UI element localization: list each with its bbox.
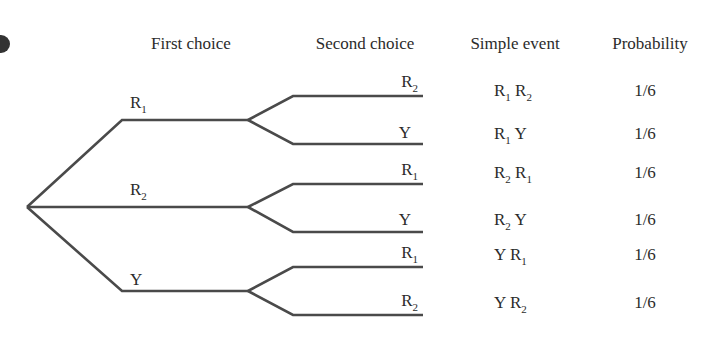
probability-value: 1/6 [634, 164, 656, 181]
first-choice-label: R2 [130, 181, 147, 198]
first-choice-label: R1 [130, 94, 147, 111]
simple-event: R1 Y [494, 125, 527, 142]
tree-diagram [0, 0, 719, 355]
simple-event: R1 R2 [494, 82, 532, 99]
simple-event: Y R2 [494, 294, 527, 311]
second-choice-label: Y [399, 211, 411, 228]
simple-event: R2 Y [494, 211, 527, 228]
second-choice-label: R1 [401, 161, 418, 178]
second-choice-label: R2 [401, 73, 418, 90]
simple-event: R2 R1 [494, 164, 532, 181]
probability-value: 1/6 [634, 246, 656, 263]
second-choice-label: Y [399, 124, 411, 141]
second-choice-label: R1 [401, 244, 418, 261]
first-choice-label: Y [130, 271, 142, 288]
probability-value: 1/6 [634, 82, 656, 99]
simple-event: Y R1 [494, 246, 527, 263]
second-choice-label: R2 [401, 292, 418, 309]
probability-value: 1/6 [634, 211, 656, 228]
probability-value: 1/6 [634, 125, 656, 142]
probability-value: 1/6 [634, 294, 656, 311]
